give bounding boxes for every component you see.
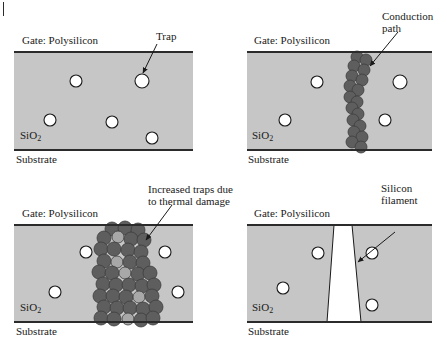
substrate-label: Substrate — [248, 153, 289, 165]
trap-circle — [106, 116, 118, 128]
oxide-label-subscript: 2 — [269, 134, 273, 143]
callout-label-panel-b: Conductionpath — [382, 10, 433, 34]
trap-circle — [279, 114, 291, 126]
trap-circle — [311, 76, 323, 88]
callout-label-panel-c-line: to thermal damage — [148, 195, 233, 207]
oxide-label-subscript: 2 — [37, 306, 41, 315]
oxide-label: SiO2 — [252, 301, 273, 317]
panel-b — [247, 32, 432, 153]
callout-label-panel-d: Siliconfilament — [381, 182, 418, 206]
page-margin-tick — [3, 2, 4, 16]
substrate-label: Substrate — [16, 153, 57, 165]
oxide-label-subscript: 2 — [37, 134, 41, 143]
defect-cluster-circle — [107, 242, 121, 256]
callout-label-panel-b-line: Conduction — [382, 10, 433, 22]
trap-circle — [80, 246, 92, 258]
oxide-label: SiO2 — [20, 301, 41, 317]
callout-label-panel-a-line: Trap — [156, 30, 176, 42]
callout-label-panel-d-line: Silicon — [381, 182, 418, 194]
trap-circle — [49, 286, 61, 298]
trap-circle — [393, 75, 407, 89]
trap-circle — [379, 114, 391, 126]
gate-label: Gate: Polysilicon — [254, 207, 330, 219]
callout-label-panel-a: Trap — [156, 30, 176, 42]
defect-cluster-circle — [112, 231, 124, 243]
oxide-label-subscript: 2 — [269, 306, 273, 315]
callout-label-panel-d-line: filament — [381, 194, 418, 206]
trap-circle — [312, 247, 324, 259]
trap-circle — [146, 132, 158, 144]
substrate-label: Substrate — [248, 325, 289, 337]
substrate-label: Substrate — [16, 325, 57, 337]
oxide-label: SiO2 — [252, 129, 273, 145]
panel-d — [247, 225, 432, 322]
defect-cluster-circle — [123, 301, 137, 315]
oxide-label-text: SiO — [20, 301, 37, 313]
gate-label: Gate: Polysilicon — [22, 34, 98, 46]
trap-circle — [135, 74, 149, 88]
defect-cluster-circle — [122, 313, 134, 325]
trap-circle — [159, 246, 171, 258]
defect-cluster-circle — [107, 312, 121, 326]
callout-label-panel-c: Increased traps dueto thermal damage — [148, 183, 233, 207]
oxide-layer — [247, 52, 432, 150]
trap-circle — [70, 75, 82, 87]
trap-circle — [172, 286, 184, 298]
trap-circle — [366, 299, 378, 311]
trap-circle — [366, 247, 378, 259]
oxide-label-text: SiO — [252, 129, 269, 141]
callout-label-panel-b-line: path — [382, 22, 433, 34]
oxide-breakdown-figure: Gate: PolysiliconSiO2SubstrateTrapGate: … — [0, 0, 447, 348]
defect-cluster-circle — [355, 141, 367, 153]
defect-cluster-circle — [119, 267, 131, 279]
trap-circle — [44, 114, 56, 126]
oxide-label-text: SiO — [20, 129, 37, 141]
oxide-label-text: SiO — [252, 301, 269, 313]
oxide-label: SiO2 — [20, 129, 41, 145]
callout-label-panel-c-line: Increased traps due — [148, 183, 233, 195]
gate-label: Gate: Polysilicon — [22, 207, 98, 219]
figure-canvas — [0, 0, 447, 348]
defect-cluster-circle — [133, 291, 145, 303]
trap-circle — [277, 282, 289, 294]
gate-label: Gate: Polysilicon — [254, 34, 330, 46]
